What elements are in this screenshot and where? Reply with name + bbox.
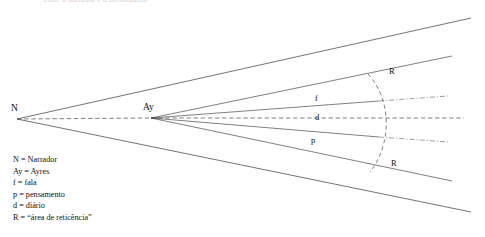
reticence-arc xyxy=(368,74,386,172)
legend-item-reticencia: R = “área de reticência” xyxy=(13,212,92,224)
ray-label-fala: f xyxy=(315,94,318,103)
arc-label-reticencia-upper: R xyxy=(389,67,395,76)
ayres-ray-fala-dashdot xyxy=(379,96,448,101)
ayres-ray-pensamento-solid xyxy=(151,118,379,137)
legend-item-pensamento: p = pensamento xyxy=(13,189,92,201)
arc-label-reticencia-lower: R xyxy=(391,159,397,168)
legend-item-ayres: Ay = Ayres xyxy=(13,166,92,178)
legend-item-narrador: N = Narrador xyxy=(13,154,92,166)
legend-item-fala: f = fala xyxy=(13,177,92,189)
ayres-ray-fala-solid xyxy=(151,101,379,118)
ayres-ray-upper-outer xyxy=(151,56,452,118)
legend: N = Narrador Ay = Ayres f = fala p = pen… xyxy=(13,154,92,224)
vertex-label-ayres: Ay xyxy=(143,103,154,113)
legend-item-diario: d = diário xyxy=(13,200,92,212)
ayres-ray-pensamento-dashdot xyxy=(379,137,448,142)
narrator-to-ayres-axis xyxy=(17,118,151,119)
vertex-label-narrador: N xyxy=(11,104,18,114)
ray-label-diario: d xyxy=(315,113,319,122)
ayres-ray-lower-outer xyxy=(151,118,452,181)
narrator-cone-upper-line xyxy=(17,18,471,119)
ray-label-pensamento: p xyxy=(311,136,315,145)
